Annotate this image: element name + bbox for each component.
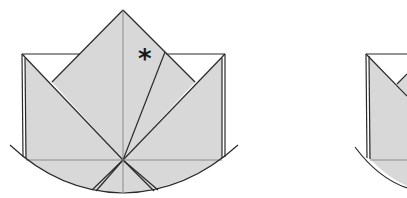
figure-step-b — [355, 54, 407, 188]
origami-diagram — [0, 0, 407, 198]
figure-step-a — [10, 10, 238, 193]
asterisk-marker: * — [138, 46, 152, 72]
